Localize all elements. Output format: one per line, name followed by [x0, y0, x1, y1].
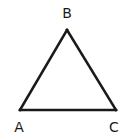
- vertex-label-b: B: [62, 5, 72, 21]
- edge-bc: [67, 30, 116, 110]
- vertex-label-c: C: [109, 119, 119, 135]
- triangle-diagram: B A C: [0, 0, 129, 136]
- vertex-label-a: A: [14, 119, 24, 135]
- edge-ab: [20, 30, 67, 110]
